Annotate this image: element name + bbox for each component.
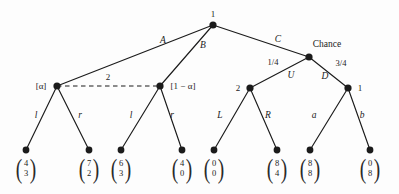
payoff-paren-right: ): [125, 158, 131, 180]
edge-l-right: [121, 86, 160, 150]
payoff-paren-left: (: [267, 158, 273, 180]
payoff-paren-left: (: [204, 158, 210, 180]
edge-U: [250, 57, 309, 88]
payoff-player2: 8: [308, 169, 312, 179]
payoff-player2: 3: [24, 169, 28, 179]
payoff-player2: 8: [368, 169, 372, 179]
terminal-node: [274, 147, 281, 154]
terminal-node: [211, 147, 218, 154]
edge-C: [213, 25, 309, 57]
payoff-paren-right: ): [374, 158, 380, 180]
edge-l-left: [26, 86, 57, 150]
edge-b: [348, 88, 370, 150]
node-alpha-right: [156, 82, 163, 89]
payoff-paren-right: ): [218, 158, 224, 180]
payoff-paren-right: ): [281, 158, 287, 180]
payoff-paren-left: (: [16, 158, 22, 180]
terminal-node: [367, 147, 374, 154]
edge-R: [250, 88, 277, 150]
terminal-node: [23, 147, 30, 154]
payoff-vector: ( 8 8 ): [298, 158, 321, 180]
payoff-vector: ( 4 0 ): [170, 158, 193, 180]
edge-a: [310, 88, 348, 150]
payoff-vector: ( 4 3 ): [14, 158, 37, 180]
payoff-player2: 4: [275, 169, 279, 179]
terminal-node-group: [23, 147, 374, 154]
edge-A: [57, 25, 213, 86]
payoff-vector: ( 8 4 ): [265, 158, 288, 180]
node-alpha-left: [53, 82, 60, 89]
payoff-player2: 0: [180, 169, 184, 179]
terminal-node: [179, 147, 186, 154]
game-tree-figure: 1 [α] [1 − α] Chance 2 1 2 A B C 1/4 U 3…: [0, 0, 399, 194]
payoff-player2: 2: [87, 169, 91, 179]
payoff-paren-left: (: [111, 158, 117, 180]
edge-r-right: [160, 86, 182, 150]
payoff-player2: 0: [212, 169, 216, 179]
payoff-paren-right: ): [314, 158, 320, 180]
payoff-paren-left: (: [172, 158, 178, 180]
edge-r-left: [57, 86, 89, 150]
node-player2-mid: [246, 84, 253, 91]
edge-B: [160, 25, 213, 86]
node-player1-right: [344, 84, 351, 91]
payoff-vector: ( 0 8 ): [358, 158, 381, 180]
terminal-node: [86, 147, 93, 154]
payoff-paren-left: (: [360, 158, 366, 180]
payoff-paren-right: ): [30, 158, 36, 180]
terminal-node: [307, 147, 314, 154]
payoff-paren-left: (: [300, 158, 306, 180]
edge-D: [309, 57, 348, 88]
payoff-paren-left: (: [79, 158, 85, 180]
payoff-paren-right: ): [186, 158, 192, 180]
edge-L: [214, 88, 250, 150]
payoff-vector: ( 6 3 ): [109, 158, 132, 180]
node-chance: [305, 53, 312, 60]
payoff-vector: ( 7 2 ): [77, 158, 100, 180]
node-root: [209, 21, 216, 28]
payoff-vector: ( 0 0 ): [202, 158, 225, 180]
payoff-paren-right: ): [93, 158, 99, 180]
payoff-player2: 3: [119, 169, 123, 179]
tree-edges-and-nodes: [0, 0, 399, 194]
terminal-node: [118, 147, 125, 154]
